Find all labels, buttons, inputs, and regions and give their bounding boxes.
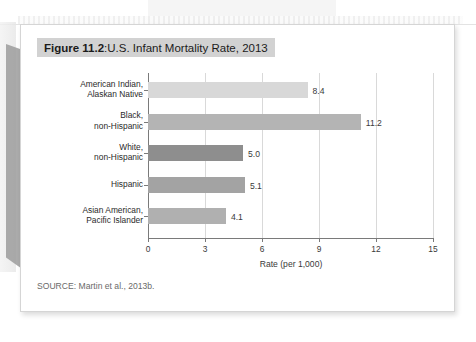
category-label-line: Black, — [37, 110, 143, 121]
category-label: Hispanic — [37, 179, 143, 190]
figure-title-text: U.S. Infant Mortality Rate, 2013 — [107, 42, 267, 54]
bar-value-label: 8.4 — [313, 86, 325, 96]
category-label-line: Pacific Islander — [37, 215, 143, 226]
gridline — [376, 73, 377, 238]
category-label: American Indian,Alaskan Native — [37, 79, 143, 100]
bar — [148, 177, 245, 193]
category-tick — [144, 122, 148, 123]
x-axis-line — [148, 238, 434, 239]
x-axis-tick — [433, 238, 434, 242]
x-axis-tick-label: 15 — [428, 244, 437, 254]
category-tick — [144, 90, 148, 91]
category-label-line: American Indian, — [37, 79, 143, 90]
x-axis-tick — [376, 238, 377, 242]
figure-number: Figure 11.2 — [44, 42, 104, 54]
category-label-line: Asian American, — [37, 205, 143, 216]
figure-card: Figure 11.2 : U.S. Infant Mortality Rate… — [20, 24, 455, 312]
category-label-line: Hispanic — [37, 179, 143, 190]
category-label: Asian American,Pacific Islander — [37, 205, 143, 226]
bar — [148, 208, 226, 224]
x-axis-tick-label: 12 — [371, 244, 380, 254]
bars-container: 8.411.25.05.14.1 — [148, 73, 433, 238]
chart-plot-area: American Indian,Alaskan NativeBlack,non-… — [37, 73, 441, 273]
figure-title: Figure 11.2 : U.S. Infant Mortality Rate… — [37, 38, 275, 57]
category-label-line: non-Hispanic — [37, 152, 143, 163]
source-note: SOURCE: Martin et al., 2013b. — [37, 281, 155, 291]
category-label: Black,non-Hispanic — [37, 110, 143, 131]
bar-value-label: 5.0 — [248, 149, 260, 159]
bar-value-label: 4.1 — [231, 212, 243, 222]
scan-left-gradient-artifact — [0, 22, 16, 272]
bar-value-label: 5.1 — [250, 181, 262, 191]
x-axis-title: Rate (per 1,000) — [148, 259, 434, 269]
category-label: White,non-Hispanic — [37, 142, 143, 163]
category-label-line: non-Hispanic — [37, 121, 143, 132]
x-axis-tick-label: 9 — [317, 244, 322, 254]
bar — [148, 82, 308, 98]
x-axis-tick-label: 3 — [203, 244, 208, 254]
category-tick — [144, 216, 148, 217]
bar — [148, 114, 361, 130]
x-axis-tick — [262, 238, 263, 242]
x-axis-tick — [148, 238, 149, 242]
x-axis-tick — [205, 238, 206, 242]
category-label-line: Alaskan Native — [37, 89, 143, 100]
gridline — [319, 73, 320, 238]
bar — [148, 145, 243, 161]
gridline — [433, 73, 434, 238]
x-axis-tick-label: 0 — [146, 244, 151, 254]
x-axis-tick-label: 6 — [260, 244, 265, 254]
category-tick — [144, 153, 148, 154]
x-axis-tick — [319, 238, 320, 242]
category-label-line: White, — [37, 142, 143, 153]
category-tick — [144, 185, 148, 186]
bar-value-label: 11.2 — [366, 118, 382, 128]
category-axis-labels: American Indian,Alaskan NativeBlack,non-… — [37, 73, 143, 238]
